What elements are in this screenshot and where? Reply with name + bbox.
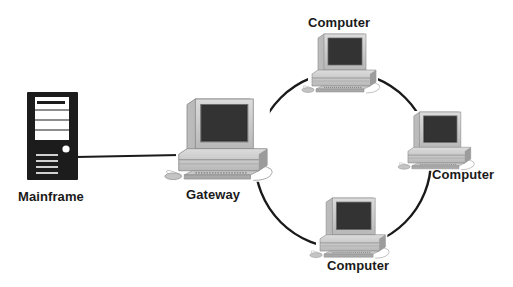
computer-top-label: Computer bbox=[308, 15, 370, 30]
mainframe-gateway-link bbox=[76, 155, 180, 157]
computer-top-icon bbox=[302, 33, 380, 94]
gateway-computer-icon bbox=[165, 98, 272, 182]
computer-bottom-label: Computer bbox=[327, 258, 389, 273]
network-diagram bbox=[0, 0, 513, 287]
mainframe-label: Mainframe bbox=[18, 189, 84, 204]
computer-bottom-icon bbox=[310, 197, 389, 259]
computer-right-icon bbox=[398, 111, 474, 171]
mainframe-tower-icon bbox=[27, 92, 78, 180]
gateway-label: Gateway bbox=[186, 187, 240, 202]
computer-right-label: Computer bbox=[432, 167, 494, 182]
